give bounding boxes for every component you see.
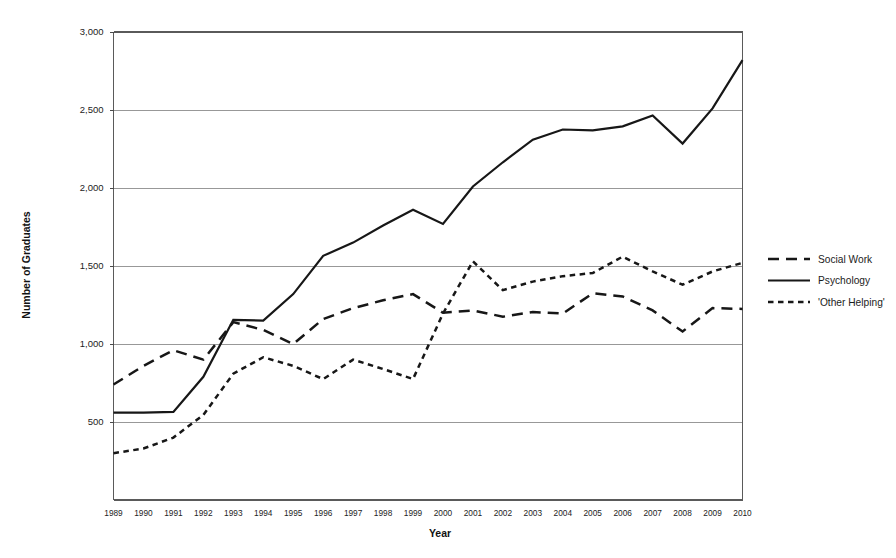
x-tick-label-2006: 2006 xyxy=(613,508,632,518)
y-tick-label: 3,000 xyxy=(80,26,104,37)
x-axis-title: Year xyxy=(429,527,451,539)
series-line-social-work xyxy=(114,293,743,384)
legend-label-social-work: Social Work xyxy=(818,254,873,265)
x-tick-label-2010: 2010 xyxy=(733,508,752,518)
y-axis-ticks xyxy=(110,32,114,422)
x-tick-label-1993: 1993 xyxy=(224,508,243,518)
x-tick-label-2002: 2002 xyxy=(494,508,513,518)
y-tick-label: 1,500 xyxy=(80,260,104,271)
x-tick-label-1999: 1999 xyxy=(404,508,423,518)
y-axis-title: Number of Graduates xyxy=(20,211,32,319)
x-tick-label-2001: 2001 xyxy=(464,508,483,518)
series-line-psychology xyxy=(114,60,743,413)
x-tick-label-1994: 1994 xyxy=(254,508,273,518)
x-tick-label-2003: 2003 xyxy=(524,508,543,518)
x-tick-label-1992: 1992 xyxy=(194,508,213,518)
chart-canvas: 5001,0001,5002,0002,5003,000 19891990199… xyxy=(0,0,896,558)
x-tick-label-1989: 1989 xyxy=(104,508,123,518)
legend-label-psychology: Psychology xyxy=(818,275,871,286)
line-chart-figure: 5001,0001,5002,0002,5003,000 19891990199… xyxy=(0,0,896,558)
y-tick-label: 1,000 xyxy=(80,338,104,349)
x-tick-label-2004: 2004 xyxy=(554,508,573,518)
x-tick-label-2005: 2005 xyxy=(584,508,603,518)
x-tick-label-1991: 1991 xyxy=(164,508,183,518)
x-tick-label-2008: 2008 xyxy=(673,508,692,518)
series-line-other-helping xyxy=(114,257,743,454)
x-tick-label-2009: 2009 xyxy=(703,508,722,518)
gridlines-group xyxy=(114,32,743,422)
legend-label-other-helping: 'Other Helping' xyxy=(818,297,885,308)
y-tick-label: 2,500 xyxy=(80,104,104,115)
data-series-group xyxy=(114,60,743,453)
x-tick-label-1996: 1996 xyxy=(314,508,333,518)
x-tick-label-2007: 2007 xyxy=(643,508,662,518)
x-tick-label-1997: 1997 xyxy=(344,508,363,518)
y-tick-label: 500 xyxy=(88,416,104,427)
x-axis-tick-labels: 1989199019911992199319941995199619971998… xyxy=(104,508,752,518)
y-tick-label: 2,000 xyxy=(80,182,104,193)
x-tick-label-1990: 1990 xyxy=(134,508,153,518)
y-axis-tick-labels: 5001,0001,5002,0002,5003,000 xyxy=(80,26,104,427)
x-tick-label-2000: 2000 xyxy=(434,508,453,518)
legend: Social WorkPsychology'Other Helping' xyxy=(768,254,885,308)
x-tick-label-1998: 1998 xyxy=(374,508,393,518)
x-tick-label-1995: 1995 xyxy=(284,508,303,518)
